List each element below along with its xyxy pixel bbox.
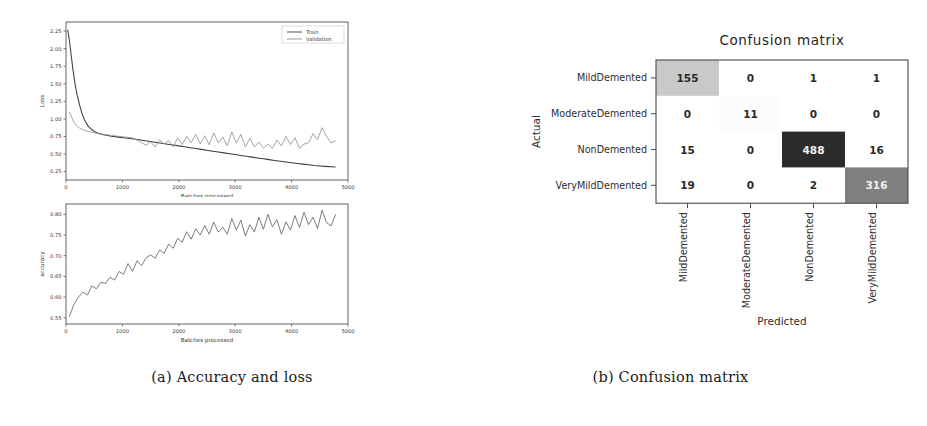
cm-cell-value: 0 xyxy=(810,108,817,120)
legend-label-0: Train xyxy=(305,29,318,35)
cm-cell-value: 316 xyxy=(866,179,888,191)
cm-cell-value: 2 xyxy=(810,179,817,191)
y-tick-label: 2.00 xyxy=(50,46,62,52)
figure-a-caption: (a) Accuracy and loss xyxy=(2,369,462,385)
y-tick-label: 0.25 xyxy=(50,168,62,174)
legend-label-1: Validation xyxy=(306,36,332,42)
cm-cell-value: 11 xyxy=(743,108,758,120)
x-tick-label: 0 xyxy=(64,328,67,334)
y-tick-label: 2.25 xyxy=(50,28,62,34)
cm-cell-value: 16 xyxy=(869,144,884,156)
cm-cell-value: 0 xyxy=(747,144,754,156)
cm-cell-value: 0 xyxy=(747,179,754,191)
y-tick-label: 0.60 xyxy=(50,294,62,300)
cm-cell-value: 19 xyxy=(680,179,695,191)
series-line-train xyxy=(68,30,336,167)
loss-chart-svg: 0.250.500.751.001.251.501.752.002.250100… xyxy=(10,12,360,197)
cm-cell-value: 0 xyxy=(747,72,754,84)
x-tick-label: 2000 xyxy=(172,184,185,190)
x-tick-label: 3000 xyxy=(229,328,242,334)
plot-frame xyxy=(66,22,348,180)
accuracy-chart-svg: 0.550.600.650.700.750.800100020003000400… xyxy=(10,196,360,361)
cm-cell-value: 155 xyxy=(677,72,699,84)
x-tick-label: 2000 xyxy=(172,328,185,334)
y-tick-label: 1.00 xyxy=(50,116,62,122)
cm-row-label: VeryMildDemented xyxy=(556,180,647,191)
figure-b-caption: (b) Confusion matrix xyxy=(422,369,919,385)
cm-y-axis-label: Actual xyxy=(530,115,542,148)
y-axis-title: accuracy xyxy=(39,251,46,277)
x-tick-label: 0 xyxy=(64,184,67,190)
y-tick-label: 1.75 xyxy=(50,63,62,69)
x-tick-label: 1000 xyxy=(116,328,129,334)
confusion-matrix-title: Confusion matrix xyxy=(719,32,844,48)
cm-row-label: MildDemented xyxy=(577,72,647,83)
plot-frame xyxy=(66,204,348,324)
x-tick-label: 4000 xyxy=(285,328,298,334)
x-axis-title: Batches processed xyxy=(181,337,234,344)
x-tick-label: 5000 xyxy=(341,184,354,190)
confusion-matrix-svg: Confusion matrix155011011001504881619023… xyxy=(430,0,927,360)
cm-col-label: ModerateDemented xyxy=(742,212,753,308)
y-tick-label: 0.50 xyxy=(50,151,62,157)
cm-x-axis-label: Predicted xyxy=(757,315,806,327)
cm-cell-value: 0 xyxy=(684,108,691,120)
y-tick-label: 0.80 xyxy=(50,211,62,217)
y-tick-label: 0.75 xyxy=(50,133,62,139)
y-tick-label: 0.65 xyxy=(50,273,62,279)
x-tick-label: 3000 xyxy=(229,184,242,190)
cm-row-label: ModerateDemented xyxy=(551,108,647,119)
accuracy-line-chart: 0.550.600.650.700.750.800100020003000400… xyxy=(10,196,360,361)
y-axis-title: Loss xyxy=(39,95,45,107)
y-tick-label: 0.75 xyxy=(50,232,62,238)
y-tick-label: 1.25 xyxy=(50,98,62,104)
x-tick-label: 4000 xyxy=(285,184,298,190)
figure-confusion-matrix: Confusion matrix155011011001504881619023… xyxy=(430,0,927,426)
series-line-validation-accuracy xyxy=(69,210,335,316)
confusion-matrix-plot: Confusion matrix155011011001504881619023… xyxy=(430,0,927,360)
series-line-validation xyxy=(69,112,335,149)
cm-cell-value: 1 xyxy=(810,72,817,84)
cm-cell-value: 488 xyxy=(803,144,825,156)
x-tick-label: 5000 xyxy=(341,328,354,334)
x-tick-label: 1000 xyxy=(116,184,129,190)
cm-cell-value: 15 xyxy=(680,144,695,156)
cm-col-label: MildDemented xyxy=(679,212,690,282)
figure-accuracy-and-loss: 0.250.500.751.001.251.501.752.002.250100… xyxy=(0,0,460,426)
cm-row-label: NonDemented xyxy=(578,144,648,155)
cm-col-label: NonDemented xyxy=(805,212,816,282)
cm-col-label: VeryMildDemented xyxy=(868,212,879,303)
loss-line-chart: 0.250.500.751.001.251.501.752.002.250100… xyxy=(10,12,360,197)
y-tick-label: 0.55 xyxy=(50,315,62,321)
cm-cell-value: 0 xyxy=(873,108,880,120)
y-tick-label: 0.70 xyxy=(50,253,62,259)
cm-cell-value: 1 xyxy=(873,72,880,84)
y-tick-label: 1.50 xyxy=(50,81,62,87)
